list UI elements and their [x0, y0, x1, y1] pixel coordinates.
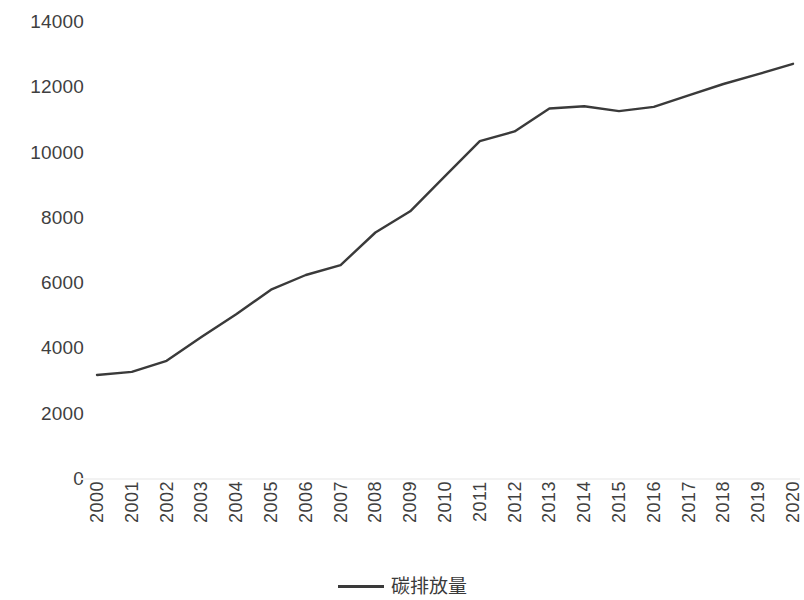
x-axis-tick-label: 2009 [400, 481, 420, 551]
x-axis-tick-label: 2006 [296, 481, 316, 551]
x-axis-tick-label: 2011 [470, 481, 490, 551]
x-axis-tick-label: 2014 [574, 481, 594, 551]
x-axis-tick-label: 2000 [87, 481, 107, 551]
x-axis-tick-label: 2002 [157, 481, 177, 551]
x-axis-tick-label: 2018 [713, 481, 733, 551]
x-axis-tick-label: 2017 [679, 481, 699, 551]
x-axis-tick-label: 2020 [783, 481, 803, 551]
x-axis-tick-label: 2019 [748, 481, 768, 551]
x-axis-tick-label: 2013 [539, 481, 559, 551]
x-axis-tick-label: 2008 [365, 481, 385, 551]
x-axis-tick-label: 2016 [644, 481, 664, 551]
x-axis-tick-label: 2010 [435, 481, 455, 551]
x-axis-tick-label: 2005 [261, 481, 281, 551]
series-line-carbon-emissions [97, 64, 793, 375]
x-axis-tick-label: 2012 [505, 481, 525, 551]
x-axis-tick-label: 2001 [122, 481, 142, 551]
x-axis-tick-label: 2003 [191, 481, 211, 551]
x-axis-tick-label: 2004 [226, 481, 246, 551]
legend-item-label: 碳排放量 [391, 575, 467, 597]
line-chart: 02000400060008000100001200014000 2000200… [0, 0, 804, 600]
legend-line-swatch-icon [338, 585, 384, 588]
x-axis: 2000200120022003200420052006200720082009… [0, 481, 804, 561]
x-axis-tick-label: 2015 [609, 481, 629, 551]
series-svg [0, 0, 804, 500]
plot-area [0, 0, 804, 500]
chart-legend: 碳排放量 [0, 572, 804, 600]
x-axis-tick-label: 2007 [331, 481, 351, 551]
